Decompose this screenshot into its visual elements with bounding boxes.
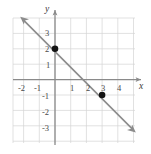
data-points — [52, 46, 106, 99]
graph-plot-area — [0, 0, 151, 154]
x-axis-label: x — [139, 82, 143, 92]
x-tick-label-2: 2 — [86, 84, 90, 93]
y-tick-label-2: 2 — [45, 45, 49, 54]
x-tick-label-3: 3 — [101, 84, 105, 93]
x-tick-label-4: 4 — [117, 84, 121, 93]
y-tick-label--2: -2 — [42, 108, 49, 117]
y-axis — [53, 10, 58, 145]
y-tick-label-3: 3 — [45, 29, 49, 38]
y-axis-label: y — [45, 5, 49, 15]
data-point-y-intercept — [52, 46, 59, 53]
x-tick-label--1: -1 — [34, 84, 41, 93]
x-tick-label-1: 1 — [70, 84, 74, 93]
x-tick-label--2: -2 — [18, 84, 25, 93]
y-tick-label--1: -1 — [42, 92, 49, 101]
y-tick-label-1: 1 — [46, 61, 50, 70]
plotted-line — [20, 17, 136, 133]
x-axis — [13, 77, 141, 82]
vertical-gridlines — [13, 18, 134, 143]
coordinate-graph-figure: -2 -1 1 2 3 4 3 2 1 -1 -2 -3 x y — [0, 0, 151, 154]
y-tick-label--3: -3 — [42, 124, 49, 133]
